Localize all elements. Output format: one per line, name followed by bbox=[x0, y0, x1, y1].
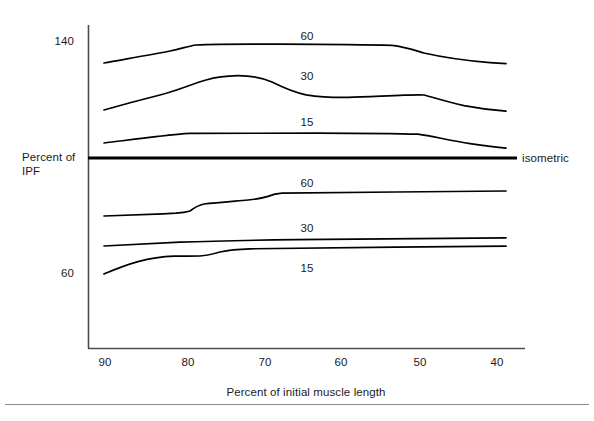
x-tick-label-60: 60 bbox=[321, 356, 361, 369]
y-axis-title-line2: IPF bbox=[22, 164, 40, 178]
y-tick-label-140: 140 bbox=[14, 35, 74, 48]
x-tick-label-80: 80 bbox=[168, 356, 208, 369]
x-axis-title: Percent of initial muscle length bbox=[186, 386, 426, 399]
curve-lengthening-60 bbox=[104, 44, 506, 64]
chart-figure: 140 60 Percent of IPF 90 80 70 60 50 40 … bbox=[0, 0, 594, 421]
y-axis-title-line1: Percent of bbox=[22, 150, 75, 164]
series-label-lengthening-30: 30 bbox=[292, 70, 322, 83]
series-label-shortening-15: 15 bbox=[292, 262, 322, 275]
x-tick-label-90: 90 bbox=[85, 356, 125, 369]
curve-lengthening-15 bbox=[104, 133, 506, 148]
series-label-shortening-30: 30 bbox=[292, 222, 322, 235]
series-label-lengthening-60: 60 bbox=[292, 30, 322, 43]
series-label-lengthening-15: 15 bbox=[292, 116, 322, 129]
y-tick-label-60: 60 bbox=[14, 267, 74, 280]
curve-shortening-60 bbox=[104, 191, 506, 216]
curve-shortening-30 bbox=[104, 238, 506, 246]
x-tick-label-70: 70 bbox=[245, 356, 285, 369]
isometric-reference-label: isometric bbox=[522, 152, 569, 165]
x-tick-label-40: 40 bbox=[477, 356, 517, 369]
x-tick-label-50: 50 bbox=[400, 356, 440, 369]
series-label-shortening-60: 60 bbox=[292, 177, 322, 190]
